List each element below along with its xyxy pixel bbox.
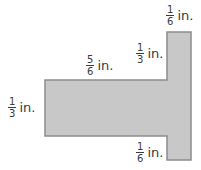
unit: in.	[97, 59, 113, 72]
unit: in.	[147, 47, 163, 60]
unit: in.	[147, 146, 163, 159]
fraction: 1 6	[166, 4, 174, 27]
fraction: 1 3	[136, 42, 144, 65]
fraction: 5 6	[86, 54, 94, 77]
numerator: 5	[86, 54, 94, 66]
label-lower-vertical: 1 6 in.	[136, 141, 163, 164]
label-top-width: 1 6 in.	[166, 4, 193, 27]
label-upper-vertical: 1 3 in.	[136, 42, 163, 65]
label-bar-length: 5 6 in.	[86, 54, 113, 77]
fraction: 1 6	[136, 141, 144, 164]
denominator: 6	[167, 16, 173, 27]
label-bar-height: 1 3 in.	[8, 96, 35, 119]
numerator: 1	[136, 141, 144, 153]
denominator: 3	[9, 108, 15, 119]
unit: in.	[19, 101, 35, 114]
denominator: 3	[137, 54, 143, 65]
numerator: 1	[136, 42, 144, 54]
composite-shape	[45, 32, 191, 160]
numerator: 1	[8, 96, 16, 108]
unit: in.	[177, 9, 193, 22]
fraction: 1 3	[8, 96, 16, 119]
numerator: 1	[166, 4, 174, 16]
denominator: 6	[87, 66, 93, 77]
denominator: 6	[137, 153, 143, 164]
